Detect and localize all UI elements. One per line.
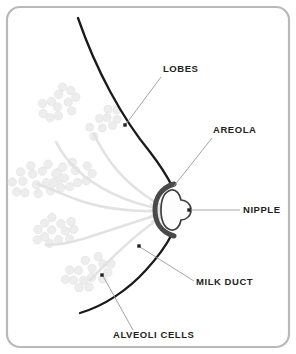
alveolus-cell	[39, 109, 47, 117]
alveolus-cell	[66, 183, 74, 191]
alveolus-cell	[94, 252, 102, 260]
alveolus-cell	[73, 178, 81, 186]
alveolus-cell	[59, 163, 67, 171]
alveolus-cell	[66, 266, 74, 274]
alveolus-cell	[104, 105, 112, 113]
alveolus-cell	[95, 114, 103, 122]
alveolus-cell	[79, 276, 87, 284]
alveolus-cell	[60, 174, 68, 182]
alveolus-cell	[88, 169, 96, 177]
alveolus-cell	[113, 115, 121, 123]
alveolus-cell	[52, 170, 60, 178]
alveolus-cell	[53, 103, 61, 111]
alveolus-cell	[34, 190, 42, 198]
alveolus-cell	[98, 124, 106, 132]
alveolus-cell	[27, 162, 35, 170]
label-alveoli-cells: ALVEOLI CELLS	[113, 329, 194, 340]
alveolus-cell	[38, 167, 46, 175]
label-nipple: NIPPLE	[243, 204, 281, 215]
leader-dot-nipple	[187, 208, 190, 211]
alveolus-cell	[16, 168, 24, 176]
alveolus-cell	[12, 188, 20, 196]
alveolus-cell	[47, 226, 55, 234]
breast-anatomy-diagram: LOBESAREOLANIPPLEMILK DUCTALVEOLI CELLS	[0, 0, 296, 354]
alveolus-cell	[58, 83, 66, 91]
alveolus-cell	[70, 225, 78, 233]
alveolus-cell	[44, 160, 52, 168]
alveolus-cell	[38, 99, 46, 107]
leader-dot-alveoli-cells	[100, 273, 103, 276]
alveolus-cell	[69, 276, 77, 284]
alveolus-cell	[64, 98, 72, 106]
alveolus-cell	[103, 114, 111, 122]
alveolus-cell	[33, 236, 41, 244]
alveolus-cell	[57, 219, 65, 227]
label-milk-duct: MILK DUCT	[196, 276, 253, 287]
alveolus-cell	[75, 284, 83, 292]
alveolus-cell	[48, 213, 56, 221]
alveolus-cell	[19, 177, 27, 185]
label-lobes: LOBES	[163, 63, 198, 74]
alveolus-cell	[74, 266, 82, 274]
alveolus-cell	[67, 217, 75, 225]
diagram-background	[0, 0, 296, 354]
leader-dot-lobes	[123, 123, 126, 126]
alveolus-cell	[86, 123, 94, 131]
alveolus-cell	[61, 275, 69, 283]
alveolus-cell	[54, 112, 62, 120]
alveolus-cell	[81, 256, 89, 264]
alveolus-cell	[67, 107, 75, 115]
alveolus-cell	[88, 264, 96, 272]
alveolus-cell	[21, 189, 29, 197]
label-areola: AREOLA	[213, 124, 256, 135]
diagram-page: LOBESAREOLANIPPLEMILK DUCTALVEOLI CELLS	[0, 0, 296, 354]
alveolus-cell	[29, 170, 37, 178]
alveolus-cell	[83, 162, 91, 170]
alveolus-cell	[41, 219, 49, 227]
leader-dot-milk-duct	[137, 244, 140, 247]
alveolus-cell	[49, 179, 57, 187]
alveolus-cell	[72, 93, 80, 101]
alveolus-cell	[8, 178, 16, 186]
alveolus-cell	[34, 225, 42, 233]
alveolus-cell	[61, 227, 69, 235]
